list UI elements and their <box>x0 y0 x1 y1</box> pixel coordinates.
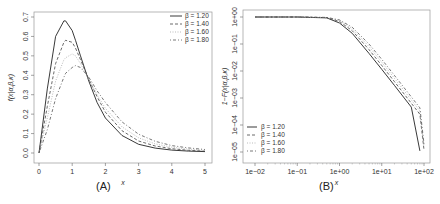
x-tick-label: 1e+01 <box>372 168 392 175</box>
y-tick-label: 1e−04 <box>231 115 238 135</box>
y-tick-label: 1e−05 <box>231 142 238 162</box>
y-tick-label: 0.1 <box>22 129 29 139</box>
y-tick-label: 1e−02 <box>231 61 238 81</box>
x-tick-label: 1e+02 <box>414 168 434 175</box>
x-tick-label: 2 <box>103 168 107 175</box>
series-line <box>39 40 205 153</box>
panel-b-survival-chart: 1e−021e−011e+001e+011e+021e+001e−011e−02… <box>220 0 440 204</box>
legend-label: β = 1.20 <box>261 123 285 131</box>
legend-label: β = 1.60 <box>185 28 209 36</box>
y-axis-label: f(x|α,β,κ) <box>7 74 15 101</box>
x-tick-label: 1e+00 <box>330 168 350 175</box>
x-tick-label: 1 <box>70 168 74 175</box>
x-axis-label: x <box>334 179 339 186</box>
legend-label: β = 1.60 <box>261 139 285 147</box>
x-tick-label: 4 <box>170 168 174 175</box>
y-tick-label: 0.4 <box>22 70 29 80</box>
y-tick-label: 0.3 <box>22 90 29 100</box>
y-tick-label: 0.6 <box>22 31 29 41</box>
y-tick-label: 0.0 <box>22 148 29 158</box>
legend-label: β = 1.80 <box>261 147 285 155</box>
y-axis-label: 1−F(x|α,β,κ) <box>221 68 229 106</box>
y-tick-label: 1e−01 <box>231 34 238 54</box>
x-tick-label: 0 <box>37 168 41 175</box>
series-line <box>39 66 205 153</box>
legend-label: β = 1.40 <box>261 131 285 139</box>
panel-b-caption: (B) <box>319 180 334 192</box>
y-tick-label: 0.2 <box>22 109 29 119</box>
y-tick-label: 1e+00 <box>231 7 238 27</box>
series-line <box>39 21 205 153</box>
y-tick-label: 0.5 <box>22 51 29 61</box>
legend-label: β = 1.40 <box>185 20 209 28</box>
x-tick-label: 5 <box>203 168 207 175</box>
x-axis-label: x <box>120 179 125 186</box>
legend-label: β = 1.80 <box>185 36 209 44</box>
legend-label: β = 1.20 <box>185 12 209 20</box>
series-line <box>39 54 205 153</box>
x-tick-label: 1e−01 <box>287 168 307 175</box>
x-tick-label: 1e−02 <box>245 168 265 175</box>
y-tick-label: 0.7 <box>22 12 29 22</box>
y-tick-label: 1e−03 <box>231 88 238 108</box>
x-tick-label: 3 <box>137 168 141 175</box>
panel-a-density-chart: 0123450.00.10.20.30.40.50.60.7xf(x|α,β,κ… <box>0 0 220 204</box>
panel-a-caption: (A) <box>96 180 111 192</box>
density-plot-svg: 0123450.00.10.20.30.40.50.60.7xf(x|α,β,κ… <box>0 0 220 204</box>
survival-plot-svg: 1e−021e−011e+001e+011e+021e+001e−011e−02… <box>220 0 440 204</box>
